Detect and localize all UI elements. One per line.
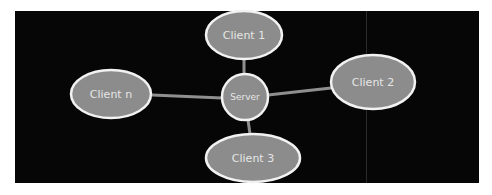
node-client-1[interactable]: Client 1 (206, 11, 282, 59)
node-label: Client 2 (352, 76, 394, 89)
node-label: Client n (90, 88, 132, 101)
edge-server-client-n (152, 95, 222, 98)
node-label: Client 3 (232, 152, 274, 165)
node-server[interactable]: Server (222, 74, 268, 120)
node-client-n[interactable]: Client n (71, 70, 151, 118)
node-label: Client 1 (223, 29, 265, 42)
node-client-2[interactable]: Client 2 (331, 55, 415, 109)
edge-server-client-3 (248, 120, 250, 134)
node-label: Server (230, 92, 260, 102)
network-diagram: Client 1 Client n Server Client 2 Client… (0, 0, 492, 195)
diagram-canvas: Client 1 Client n Server Client 2 Client… (0, 0, 492, 195)
edge-server-client-2 (268, 88, 331, 95)
node-client-3[interactable]: Client 3 (206, 134, 300, 182)
